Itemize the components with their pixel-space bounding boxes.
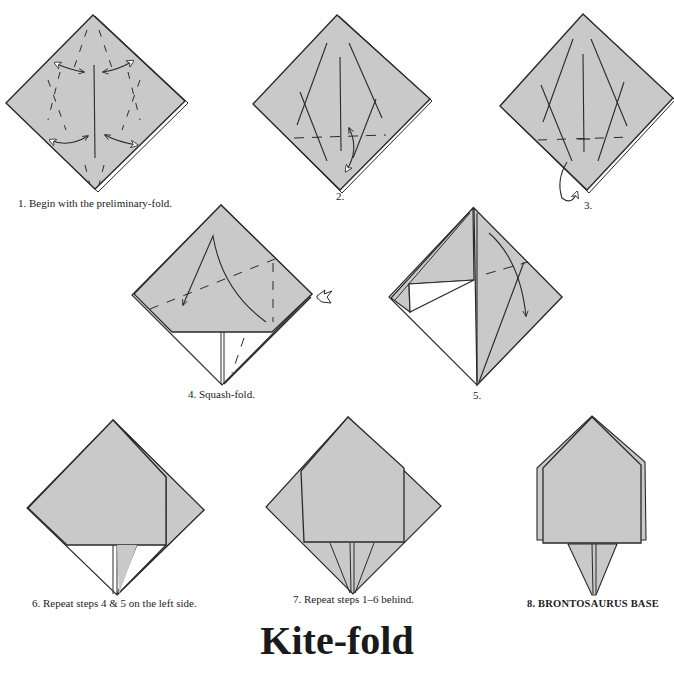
step-6-caption: 6. Repeat steps 4 & 5 on the left side. [32,597,197,609]
step-3-diagram [500,14,674,201]
step-1-caption: 1. Begin with the preliminary-fold. [18,197,172,209]
step-1-diagram [6,15,188,192]
step-2-caption: 2. [336,190,344,202]
step-4-diagram [132,205,332,385]
push-arrow-icon [317,290,332,303]
step-7-caption: 7. Repeat steps 1–6 behind. [293,593,414,605]
step-7-diagram [266,417,441,594]
step-6-diagram [27,420,204,595]
step-5-diagram [389,208,562,385]
diagram-canvas [0,0,674,674]
step-5-caption: 5. [473,389,481,401]
step-4-caption: 4. Squash-fold. [188,388,255,400]
step-8-caption: 8. BRONTOSAURUS BASE [527,598,659,609]
step-2-diagram [253,15,432,193]
page-title: Kite-fold [0,617,674,664]
step-3-caption: 3. [584,199,592,211]
step-8-diagram [537,416,646,595]
